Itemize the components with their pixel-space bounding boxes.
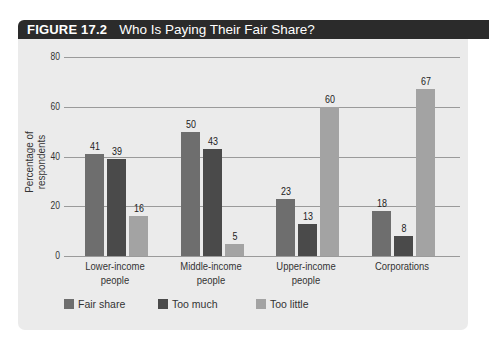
legend-swatch (158, 299, 168, 309)
bar-too-little (225, 244, 244, 256)
value-label: 18 (369, 197, 395, 209)
category-label: Middle-incomepeople (166, 259, 256, 287)
legend-label: Fair share (78, 298, 125, 310)
category-label: Corporations (357, 259, 447, 273)
legend-item: Too little (256, 298, 309, 310)
gridline (64, 57, 460, 58)
legend-label: Too much (172, 298, 218, 310)
value-label: 50 (178, 118, 204, 130)
figure-number: FIGURE 17.2 (27, 22, 107, 37)
bar-too-much (298, 224, 317, 256)
value-label: 39 (104, 145, 130, 157)
figure-title: Who Is Paying Their Fair Share? (119, 22, 315, 37)
legend-swatch (256, 299, 266, 309)
bar-too-little (320, 107, 339, 256)
bar-fair-share (276, 199, 295, 256)
figure-header: FIGURE 17.2 Who Is Paying Their Fair Sha… (18, 20, 489, 39)
value-label: 23 (273, 185, 299, 197)
bar-fair-share (85, 154, 104, 256)
legend-label: Too little (270, 298, 309, 310)
category-label: Upper-incomepeople (261, 259, 351, 287)
value-label: 16 (126, 202, 152, 214)
y-tick-label: 80 (41, 51, 60, 62)
value-label: 8 (391, 222, 417, 234)
category-label: Lower-incomepeople (70, 259, 160, 287)
value-label: 60 (317, 93, 343, 105)
y-tick-label: 0 (41, 250, 60, 261)
value-label: 5 (222, 230, 248, 242)
bar-fair-share (372, 211, 391, 256)
value-label: 43 (200, 135, 226, 147)
bar-fair-share (181, 132, 200, 256)
legend-swatch (64, 299, 74, 309)
bar-too-little (416, 89, 435, 256)
gridline (64, 107, 460, 108)
bar-too-much (394, 236, 413, 256)
legend-item: Too much (158, 298, 218, 310)
y-axis-label: Percentage of respondents (23, 104, 47, 221)
bar-too-little (129, 216, 148, 256)
bar-too-much (107, 159, 126, 256)
legend-item: Fair share (64, 298, 125, 310)
value-label: 13 (295, 210, 321, 222)
bar-too-much (203, 149, 222, 256)
value-label: 67 (413, 75, 439, 87)
gridline (64, 256, 460, 257)
